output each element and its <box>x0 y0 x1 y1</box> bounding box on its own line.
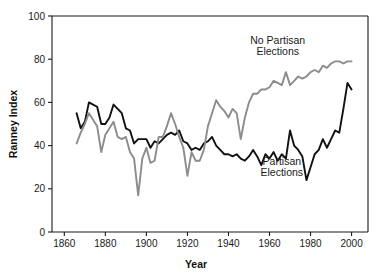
y-tick-label: 40 <box>34 140 46 151</box>
data-series-group <box>77 61 352 195</box>
series-line-partisan-elections <box>77 83 352 180</box>
x-tick-label: 1900 <box>135 238 158 249</box>
y-tick-label: 0 <box>39 227 45 238</box>
x-tick-label: 2000 <box>340 238 363 249</box>
x-tick-label: 1960 <box>258 238 281 249</box>
x-tick-label: 1920 <box>176 238 199 249</box>
y-axis-ticks: 020406080100 <box>28 11 52 238</box>
series-line-no-partisan-elections <box>77 61 352 195</box>
series-annotations: No PartisanElectionsPartisanElections <box>250 34 305 178</box>
x-tick-label: 1980 <box>299 238 322 249</box>
x-tick-label: 1940 <box>217 238 240 249</box>
y-tick-label: 80 <box>34 54 46 65</box>
x-tick-label: 1880 <box>94 238 117 249</box>
x-tick-label: 1860 <box>53 238 76 249</box>
ranney-index-chart: 020406080100 186018801900192019401960198… <box>0 0 382 278</box>
series-annotation-0: No PartisanElections <box>250 34 305 57</box>
series-annotation-1: PartisanElections <box>261 155 304 178</box>
y-tick-label: 20 <box>34 183 46 194</box>
y-tick-label: 60 <box>34 97 46 108</box>
x-axis-title: Year <box>185 258 207 270</box>
chart-svg: 020406080100 186018801900192019401960198… <box>0 0 382 278</box>
x-axis-ticks: 18601880190019201940196019802000 <box>53 232 363 249</box>
y-tick-label: 100 <box>28 11 45 22</box>
y-axis-title: Ranney Index <box>7 90 19 158</box>
axis-frame <box>52 16 368 232</box>
